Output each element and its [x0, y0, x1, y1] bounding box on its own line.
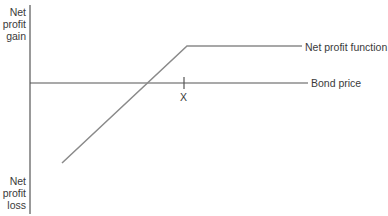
y-label-loss-line1: Net [0, 175, 26, 187]
y-label-loss-line3: loss [0, 199, 26, 211]
y-label-gain-line1: Net [0, 6, 26, 18]
net-profit-function-line [62, 46, 302, 163]
y-label-loss: Net profit loss [0, 175, 26, 211]
payoff-diagram [0, 0, 388, 216]
y-label-gain-line2: profit [0, 18, 26, 30]
x-tick-label: X [180, 91, 187, 103]
x-axis-label: Bond price [311, 77, 361, 89]
y-label-loss-line2: profit [0, 187, 26, 199]
y-label-gain: Net profit gain [0, 6, 26, 42]
curve-label: Net profit function [305, 41, 387, 53]
y-label-gain-line3: gain [0, 30, 26, 42]
